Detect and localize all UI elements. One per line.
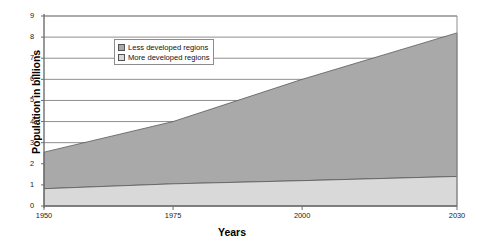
x-axis-tick-label: 1950 — [24, 212, 64, 220]
legend-swatch-icon — [118, 54, 125, 61]
area-less-developed-regions — [44, 33, 457, 189]
chart-legend: Less developed regions More developed re… — [114, 39, 214, 65]
y-axis-tick-label: 5 — [20, 96, 34, 104]
y-axis-tick-label: 8 — [20, 33, 34, 41]
y-axis-tick-label: 7 — [20, 54, 34, 62]
y-axis-tick-label: 9 — [20, 12, 34, 20]
legend-item-label: More developed regions — [128, 53, 209, 62]
x-axis-tick-label: 2000 — [282, 212, 322, 220]
y-axis-tick-label: 2 — [20, 160, 34, 168]
population-area-chart: Population in billions Years 0123456789 … — [0, 0, 477, 246]
y-axis-tick-label: 4 — [20, 118, 34, 126]
legend-item-more-developed-regions: More developed regions — [118, 52, 209, 62]
y-axis-tick-label: 3 — [20, 139, 34, 147]
y-axis-tick-label: 0 — [20, 202, 34, 210]
y-axis-tick-label: 1 — [20, 181, 34, 189]
legend-item-less-developed-regions: Less developed regions — [118, 42, 209, 52]
legend-swatch-icon — [118, 44, 125, 51]
y-axis-tick-label: 6 — [20, 75, 34, 83]
plot-area — [0, 0, 477, 246]
x-axis-tick-label: 1975 — [153, 212, 193, 220]
x-axis-title: Years — [182, 226, 282, 238]
x-axis-tick-label: 2030 — [437, 212, 477, 220]
legend-item-label: Less developed regions — [128, 43, 208, 52]
